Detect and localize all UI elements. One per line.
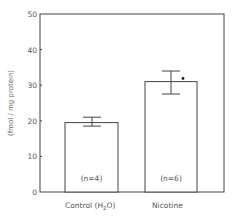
y-tick-40: 40 <box>27 46 37 55</box>
y-tick-30: 30 <box>27 81 37 90</box>
x-label-nicotine: Nicotine <box>152 201 183 210</box>
n-label-control: (n=4) <box>81 174 103 183</box>
y-axis-label: (fmol / mg protein) <box>7 70 15 136</box>
x-label-control: Control (H2O) <box>65 201 115 211</box>
y-tick-10: 10 <box>27 152 37 161</box>
bar-chart: 0 10 20 30 40 50 (fmol / mg protein) (n=… <box>0 0 237 216</box>
n-label-nicotine: (n=6) <box>160 174 182 183</box>
y-tick-0: 0 <box>32 188 37 197</box>
y-tick-50: 50 <box>27 10 37 19</box>
y-tick-20: 20 <box>27 117 37 126</box>
significance-marker <box>182 77 185 80</box>
